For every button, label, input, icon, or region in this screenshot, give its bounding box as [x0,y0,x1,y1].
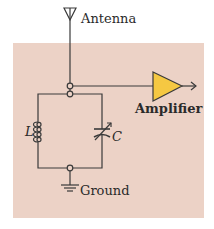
ground-label: Ground [80,183,130,198]
junction-node-bottom [67,165,73,171]
loop-wire-left-bottom [38,142,67,168]
loop-wire-left-top [38,94,67,122]
capacitor-label: C [112,129,122,144]
amplifier-label: Amplifier [134,101,203,116]
loop-wire-right-bottom [73,135,102,168]
junction-node-loop [67,91,73,97]
inductor-label: L [24,124,34,139]
ground-icon [61,185,79,191]
loop-wire-right-top [73,94,102,129]
junction-node-top [67,83,73,89]
inductor-coil-icon [34,122,42,142]
circuit-diagram: Antenna Amplifier L C Ground [0,0,214,229]
antenna-icon [64,8,76,20]
amplifier-triangle-icon [153,72,182,101]
antenna-label: Antenna [80,11,136,26]
